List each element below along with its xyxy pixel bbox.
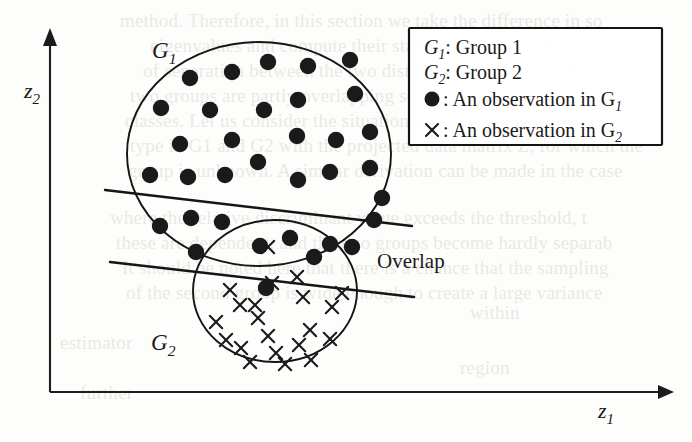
observation-cross [262, 330, 274, 342]
observation-dot [290, 172, 306, 188]
observation-dot [182, 70, 198, 86]
observation-cross [234, 299, 246, 311]
y-axis-label: z2 [23, 78, 41, 107]
legend-dot-marker-icon [425, 92, 440, 107]
observation-cross [291, 271, 303, 283]
observation-dot [322, 236, 338, 252]
observation-cross [270, 347, 282, 359]
observation-dot [322, 164, 338, 180]
observation-dot [300, 58, 316, 74]
observation-dot [306, 249, 322, 265]
observation-dot [172, 136, 188, 152]
observation-dot [289, 128, 305, 144]
observation-dot [290, 92, 306, 108]
observation-cross [252, 312, 264, 324]
observation-cross [326, 301, 338, 313]
observation-cross [293, 339, 305, 351]
observation-dot [362, 160, 378, 176]
observation-dot [366, 212, 382, 228]
observation-cross [249, 299, 261, 311]
observation-dot [142, 167, 158, 183]
observation-dot [180, 169, 196, 185]
observation-cross [210, 316, 222, 328]
observation-dot [250, 154, 266, 170]
group1-observations [142, 52, 390, 296]
observation-cross [235, 342, 247, 354]
observation-dot [362, 124, 378, 140]
observation-dot [260, 54, 276, 70]
observation-dot [224, 132, 240, 148]
x-axis-arrow-icon [658, 385, 674, 399]
observation-dot [153, 100, 169, 116]
observation-cross [224, 284, 236, 296]
y-axis-arrow-icon [43, 28, 57, 46]
observation-dot [224, 64, 240, 80]
observation-dot [256, 102, 272, 118]
observation-dot [202, 102, 218, 118]
overlap-label: Overlap [377, 249, 445, 273]
observation-cross [279, 358, 291, 370]
figure-page: method. Therefore, in this section we ta… [0, 0, 692, 442]
legend: G1: Group 1 G2: Group 2 : An observation… [409, 28, 662, 145]
observation-cross [220, 334, 232, 346]
observation-dot [152, 218, 168, 234]
observation-dot [328, 132, 344, 148]
observation-dot [214, 214, 230, 230]
observation-dot [183, 210, 199, 226]
observation-cross [297, 291, 309, 303]
group2-label: G2 [151, 330, 176, 359]
group1-label: G1 [152, 38, 176, 67]
observation-dot [344, 239, 360, 255]
observation-dot [342, 52, 358, 68]
observation-dot [188, 244, 204, 260]
x-axis-label: z1 [597, 398, 614, 427]
observation-cross [304, 324, 316, 336]
observation-dot [347, 86, 363, 102]
observation-dot [374, 190, 390, 206]
observation-dot [217, 167, 233, 183]
discriminant-scatter-figure: z1 z2 G1 G2 Overlap G1: Group 1 G2: Grou… [0, 0, 692, 442]
observation-dot [282, 230, 298, 246]
observation-cross [244, 356, 256, 368]
